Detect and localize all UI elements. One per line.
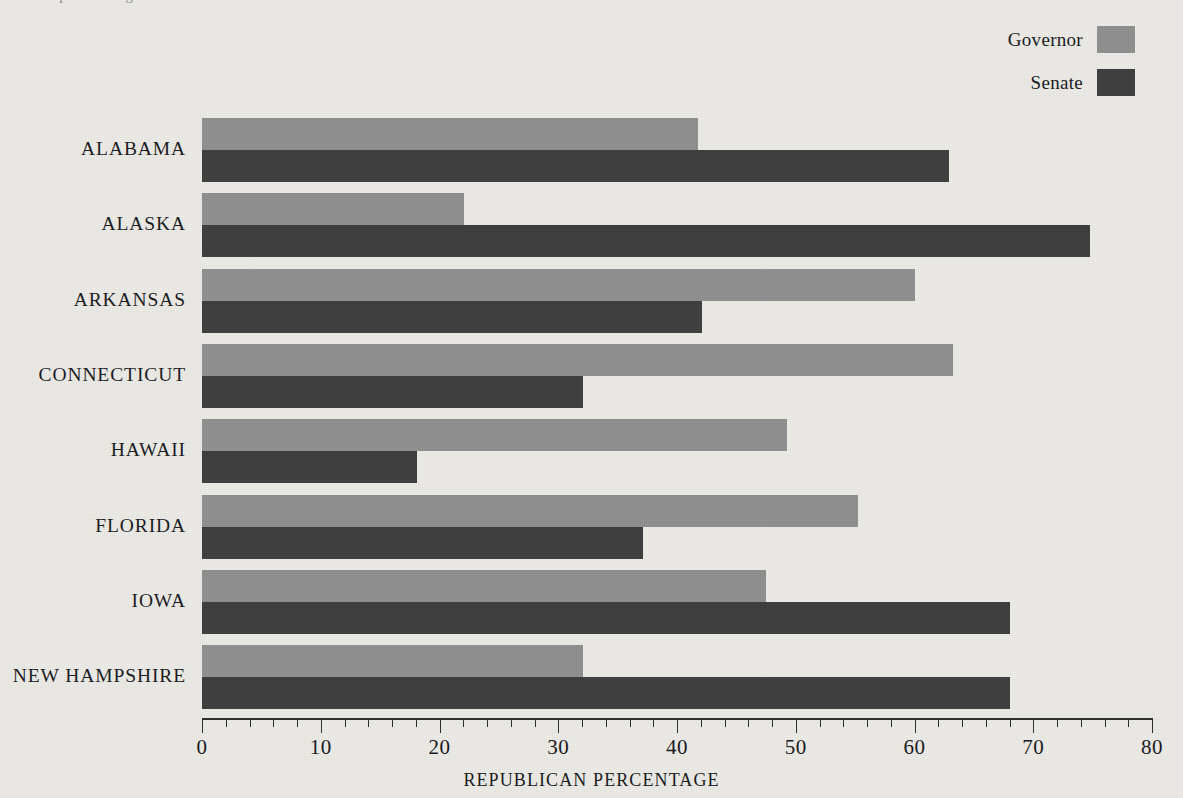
axis-tick-label: 30 xyxy=(547,735,569,760)
axis-tick-label: 40 xyxy=(666,735,688,760)
category-label: CONNECTICUT xyxy=(39,364,186,386)
axis-tick-minor xyxy=(1010,718,1011,727)
bar-governor xyxy=(202,419,787,451)
axis-tick-label: 70 xyxy=(1022,735,1044,760)
axis-tick-label: 0 xyxy=(197,735,208,760)
axis-tick-minor xyxy=(653,718,654,727)
legend-item-governor: Governor xyxy=(1008,26,1135,53)
axis-tick-minor xyxy=(463,718,464,727)
bar-senate xyxy=(202,225,1090,257)
legend-swatch-governor xyxy=(1097,26,1135,53)
category-label: NEW HAMPSHIRE xyxy=(13,665,186,687)
bar-governor xyxy=(202,570,766,602)
axis-tick-minor xyxy=(582,718,583,727)
axis-tick-minor xyxy=(891,718,892,727)
plot-area: ALABAMAALASKAARKANSASCONNECTICUTHAWAIIFL… xyxy=(202,118,1152,718)
bar-group xyxy=(202,344,1152,408)
bar-group xyxy=(202,645,1152,709)
bar-senate xyxy=(202,150,949,182)
bar-chart: GovernorSenate ALABAMAALASKAARKANSASCONN… xyxy=(0,0,1183,798)
axis-tick-major xyxy=(558,718,559,733)
axis-tick-major xyxy=(677,718,678,733)
axis-tick-minor xyxy=(772,718,773,727)
category-label: FLORIDA xyxy=(95,515,186,537)
axis-tick-minor xyxy=(487,718,488,727)
legend-swatch-senate xyxy=(1097,69,1135,96)
bar-senate xyxy=(202,301,702,333)
axis-tick-minor xyxy=(1105,718,1106,727)
bar-governor xyxy=(202,344,953,376)
axis-tick-minor xyxy=(345,718,346,727)
bar-group xyxy=(202,118,1152,182)
category-label: ARKANSAS xyxy=(74,289,186,311)
axis-tick-label: 80 xyxy=(1141,735,1163,760)
bar-senate xyxy=(202,677,1010,709)
axis-tick-major xyxy=(1152,718,1153,733)
axis-tick-minor xyxy=(250,718,251,727)
bar-governor xyxy=(202,269,915,301)
axis-tick-minor xyxy=(843,718,844,727)
axis-tick-minor xyxy=(938,718,939,727)
bar-group xyxy=(202,495,1152,559)
axis-tick-minor xyxy=(511,718,512,727)
axis-tick-minor xyxy=(701,718,702,727)
axis-tick-minor xyxy=(226,718,227,727)
axis-tick-label: 10 xyxy=(310,735,332,760)
axis-tick-minor xyxy=(297,718,298,727)
axis-tick-minor xyxy=(986,718,987,727)
axis-tick-minor xyxy=(820,718,821,727)
bar-governor xyxy=(202,645,583,677)
axis-tick-minor xyxy=(392,718,393,727)
axis-tick-major xyxy=(440,718,441,733)
bar-group xyxy=(202,570,1152,634)
axis-tick-minor xyxy=(606,718,607,727)
bar-governor xyxy=(202,495,858,527)
axis-tick-minor xyxy=(1128,718,1129,727)
axis-tick-label: 20 xyxy=(429,735,451,760)
axis-tick-minor xyxy=(630,718,631,727)
category-label: IOWA xyxy=(131,590,186,612)
axis-tick-minor xyxy=(867,718,868,727)
category-label: ALASKA xyxy=(102,213,187,235)
axis-tick-minor xyxy=(368,718,369,727)
axis-tick-minor xyxy=(962,718,963,727)
bar-group xyxy=(202,419,1152,483)
axis-tick-label: 50 xyxy=(785,735,807,760)
bar-senate xyxy=(202,451,417,483)
bar-governor xyxy=(202,193,464,225)
axis-tick-minor xyxy=(748,718,749,727)
axis-tick-major xyxy=(915,718,916,733)
chart-legend: GovernorSenate xyxy=(1008,26,1135,96)
axis-tick-label: 60 xyxy=(904,735,926,760)
axis-tick-minor xyxy=(1081,718,1082,727)
axis-tick-minor xyxy=(1057,718,1058,727)
bar-group xyxy=(202,269,1152,333)
legend-label: Senate xyxy=(1031,72,1083,94)
axis-tick-major xyxy=(796,718,797,733)
legend-item-senate: Senate xyxy=(1008,69,1135,96)
legend-label: Governor xyxy=(1008,29,1083,51)
axis-tick-minor xyxy=(535,718,536,727)
category-label: HAWAII xyxy=(111,439,186,461)
axis-tick-major xyxy=(321,718,322,733)
axis-tick-minor xyxy=(273,718,274,727)
x-axis-label: REPUBLICAN PERCENTAGE xyxy=(0,770,1183,791)
axis-tick-major xyxy=(202,718,203,733)
bar-senate xyxy=(202,376,583,408)
bar-senate xyxy=(202,527,643,559)
bar-senate xyxy=(202,602,1010,634)
axis-tick-minor xyxy=(725,718,726,727)
axis-tick-major xyxy=(1033,718,1034,733)
bar-governor xyxy=(202,118,698,150)
category-label: ALABAMA xyxy=(81,138,186,160)
axis-tick-minor xyxy=(416,718,417,727)
bar-group xyxy=(202,193,1152,257)
